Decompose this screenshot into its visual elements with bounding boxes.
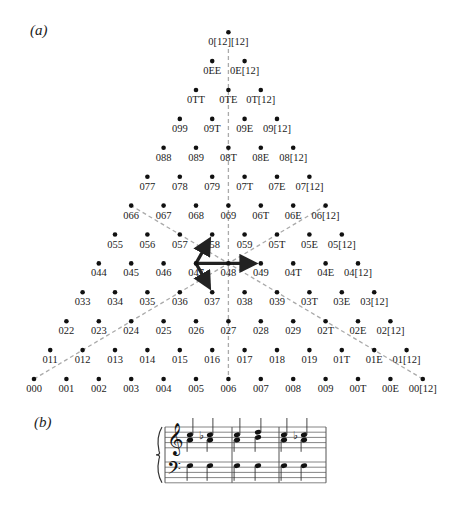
point-label: 04[12] [344, 267, 372, 278]
point-label: 038 [237, 296, 253, 307]
lattice-point: 045 [123, 261, 139, 278]
lattice-point: 09T [204, 117, 222, 134]
point-dot [242, 59, 247, 64]
point-label: 018 [269, 354, 285, 365]
lattice-point: 035 [140, 290, 156, 307]
point-dot [307, 232, 312, 237]
point-label: 01E [366, 354, 383, 365]
lattice-point: 06E [285, 203, 302, 220]
point-label: 013 [107, 354, 123, 365]
point-label: 055 [107, 239, 123, 250]
point-label: 088 [156, 152, 172, 163]
point-label: 036 [172, 296, 188, 307]
lattice-point: 007 [253, 377, 269, 394]
point-label: 039 [269, 296, 285, 307]
point-label: 058 [204, 239, 220, 250]
point-label: 014 [140, 354, 157, 365]
point-label: 03[12] [360, 296, 388, 307]
point-dot [113, 290, 118, 295]
point-label: 03T [301, 296, 319, 307]
lattice-point: 057 [172, 232, 188, 249]
point-label: 001 [59, 383, 75, 394]
point-dot [80, 290, 85, 295]
lattice-point: 00T [350, 377, 368, 394]
lattice-point: 059 [237, 232, 253, 249]
flat-icon: ♭ [199, 429, 204, 441]
point-dot [242, 290, 247, 295]
point-dot [275, 348, 280, 353]
point-label: 08T [220, 152, 238, 163]
point-label: 009 [318, 383, 334, 394]
point-label: 006 [221, 383, 237, 394]
point-dot [340, 348, 345, 353]
point-label: 0T[12] [246, 94, 275, 105]
point-label: 057 [172, 239, 188, 250]
point-dot [145, 174, 150, 179]
point-dot [194, 146, 199, 151]
point-label: 05[12] [328, 239, 356, 250]
point-dot [210, 117, 215, 122]
point-dot [242, 174, 247, 179]
point-label: 025 [156, 325, 172, 336]
lattice-point: 017 [237, 348, 253, 365]
lattice-point: 079 [204, 174, 220, 191]
point-dot [161, 319, 166, 324]
lattice-point: 037 [204, 290, 220, 307]
point-label: 000 [26, 383, 42, 394]
point-dot [275, 232, 280, 237]
point-label: 016 [204, 354, 220, 365]
point-dot [97, 377, 102, 382]
point-label: 059 [237, 239, 253, 250]
lattice-point: 078 [172, 174, 188, 191]
lattice-point: 022 [59, 319, 75, 336]
point-dot [356, 319, 361, 324]
lattice-point: 015 [172, 348, 188, 365]
point-dot [307, 290, 312, 295]
point-dot [210, 290, 215, 295]
point-dot [194, 88, 199, 93]
point-dot [32, 377, 37, 382]
point-dot [388, 377, 393, 382]
point-label: 07T [236, 181, 254, 192]
point-dot [226, 261, 231, 266]
lattice-point: 028 [253, 319, 269, 336]
point-label: 035 [140, 296, 156, 307]
point-label: 015 [172, 354, 188, 365]
lattice-point: 009 [318, 377, 334, 394]
point-label: 028 [253, 325, 269, 336]
point-dot [161, 377, 166, 382]
point-dot [145, 290, 150, 295]
point-dot [64, 319, 69, 324]
point-label: 01[12] [393, 354, 421, 365]
lattice-point: 038 [237, 290, 253, 307]
point-label: 022 [59, 325, 75, 336]
point-dot [226, 88, 231, 93]
lattice-point: 0T[12] [246, 88, 275, 105]
point-dot [242, 232, 247, 237]
point-label: 0[12][12] [208, 36, 248, 47]
lattice-point: 004 [156, 377, 173, 394]
point-dot [307, 348, 312, 353]
point-dot [226, 319, 231, 324]
point-label: 023 [91, 325, 107, 336]
lattice-point: 01E [366, 348, 383, 365]
point-dot [275, 174, 280, 179]
lattice-point: 067 [156, 203, 172, 220]
point-dot [226, 30, 231, 35]
point-dot [194, 261, 199, 266]
point-dot [242, 348, 247, 353]
lattice-point: 024 [123, 319, 140, 336]
point-label: 00T [350, 383, 368, 394]
point-label: 029 [285, 325, 301, 336]
point-label: 067 [156, 210, 172, 221]
lattice-point: 023 [91, 319, 107, 336]
lattice-point: 0[12][12] [208, 30, 248, 47]
lattice-point: 08E [252, 146, 269, 163]
point-dot [226, 146, 231, 151]
lattice-point: 056 [140, 232, 156, 249]
point-label: 047 [188, 267, 204, 278]
point-label: 089 [188, 152, 204, 163]
point-label: 026 [188, 325, 204, 336]
point-dot [291, 146, 296, 151]
point-label: 06E [285, 210, 302, 221]
